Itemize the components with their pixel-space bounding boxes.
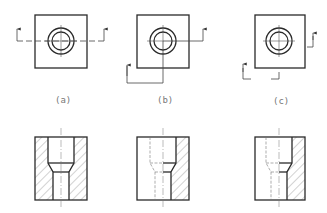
- view-label-c: (c): [273, 96, 289, 106]
- cutting-plane-line-center: [271, 72, 279, 79]
- top-view-b: [127, 15, 203, 83]
- view-label-a: (a): [55, 95, 71, 105]
- top-view-c: [243, 15, 313, 79]
- hidden-bore-left: [150, 137, 155, 200]
- hatch-right: [287, 137, 305, 200]
- view-label-b: (b): [157, 95, 173, 105]
- cutting-plane-line-left: [243, 68, 251, 79]
- section-view-b: [137, 128, 189, 208]
- section-views-drawing: (a) (b) (c): [0, 0, 327, 213]
- hatch-right: [171, 137, 189, 200]
- hatch-left: [35, 137, 53, 200]
- section-view-a: [35, 128, 87, 208]
- cutting-plane-line-right: [307, 36, 313, 47]
- hidden-bore-left: [266, 137, 271, 200]
- hatch-right: [69, 137, 87, 200]
- cutting-plane-line: [127, 41, 203, 83]
- section-view-c: [255, 128, 305, 208]
- square-outline: [255, 15, 305, 68]
- top-view-a: [17, 15, 104, 68]
